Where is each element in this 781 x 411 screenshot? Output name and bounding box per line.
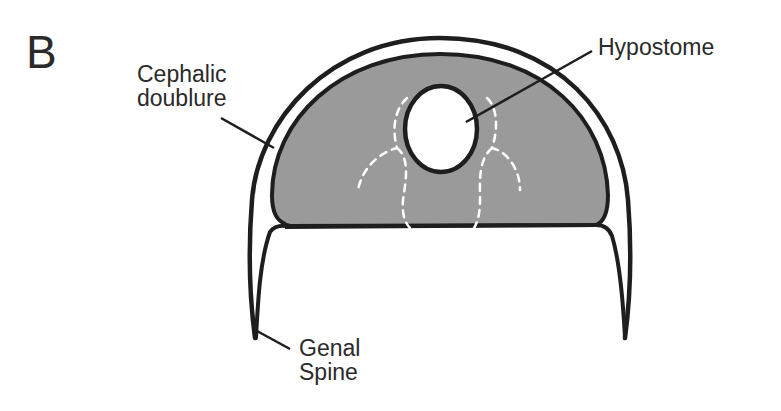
- doublure-leader-line: [221, 118, 274, 148]
- genal-spine-label: Genal Spine: [299, 336, 360, 384]
- genal-spine-label-line2: Spine: [299, 360, 360, 384]
- cephalic-doublure-label-line2: doublure: [137, 86, 227, 110]
- genal-spine-leader-line: [257, 331, 290, 349]
- hypostome-label: Hypostome: [598, 35, 714, 59]
- posterior-margin: [285, 225, 600, 227]
- cephalic-doublure-label-line1: Cephalic: [137, 62, 227, 86]
- right-genal-spine-inner: [596, 225, 625, 338]
- genal-spine-label-line1: Genal: [299, 336, 360, 360]
- panel-letter: B: [26, 28, 57, 76]
- left-genal-spine-inner: [256, 226, 288, 338]
- trilobite-cephalon-diagram: [0, 0, 781, 411]
- cephalic-doublure-label: Cephalic doublure: [137, 62, 227, 110]
- hypostome-shape: [405, 86, 477, 172]
